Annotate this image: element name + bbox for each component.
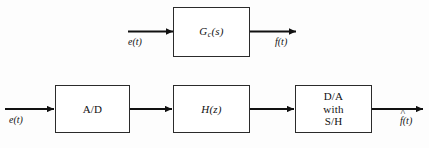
gc-block-label: Gc(s) xyxy=(199,25,223,40)
label-e-of-t-top: e(t) xyxy=(128,36,142,47)
hz-block-label: H(z) xyxy=(201,103,221,116)
da-label-line1: D/A xyxy=(324,90,344,102)
hz-label-argument: (z) xyxy=(209,103,221,115)
label-f-of-t-top: f(t) xyxy=(275,36,287,47)
ad-block: A/D xyxy=(55,85,130,133)
label-e-of-t-bottom: e(t) xyxy=(9,114,23,125)
gc-label-base: G xyxy=(199,25,207,37)
gc-block: Gc(s) xyxy=(173,7,250,57)
hz-block: H(z) xyxy=(173,85,250,133)
hat-accent: ^ xyxy=(400,108,405,118)
ad-block-label: A/D xyxy=(83,103,103,116)
block-diagram-figure: Gc(s) e(t) f(t) A/D H(z) D/A with S/H e(… xyxy=(0,0,429,148)
da-label-line3: S/H xyxy=(325,115,343,127)
f-hat-group: ^f xyxy=(400,115,403,126)
label-f-hat-of-t: ^f(t) xyxy=(400,115,412,126)
da-block: D/A with S/H xyxy=(295,85,372,133)
gc-label-argument: (s) xyxy=(211,25,223,37)
da-block-label: D/A with S/H xyxy=(323,90,343,129)
da-label-line2: with xyxy=(323,103,343,115)
